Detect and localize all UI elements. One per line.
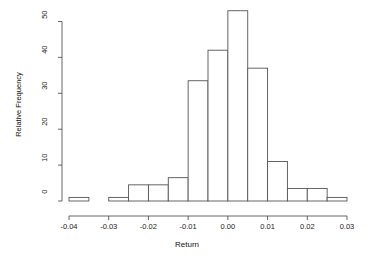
y-axis-tick-label: 40: [40, 46, 49, 68]
y-axis-tick-label: 50: [40, 10, 49, 32]
x-axis-tick-label: 0.00: [208, 222, 248, 231]
histogram-bar: [228, 11, 248, 201]
histogram-bar: [69, 197, 89, 201]
histogram-bar: [327, 197, 347, 201]
y-axis-tick-label: 0: [40, 190, 49, 212]
x-axis-title: Return: [0, 240, 374, 249]
y-axis-tick-label: 20: [40, 118, 49, 140]
histogram-bar: [109, 197, 129, 201]
x-axis-tick-label: -0.02: [128, 222, 168, 231]
y-axis-tick-label: 10: [40, 154, 49, 176]
histogram-bar: [148, 185, 168, 201]
y-axis-title: Relative Frequency: [14, 50, 23, 160]
x-axis-tick-label: -0.03: [89, 222, 129, 231]
histogram-bar: [287, 188, 307, 201]
histogram-bar: [129, 185, 149, 201]
x-axis: [69, 216, 347, 220]
x-axis-tick-label: -0.01: [168, 222, 208, 231]
histogram-bar: [307, 188, 327, 201]
y-axis: [58, 22, 62, 202]
y-axis-tick-label: 30: [40, 82, 49, 104]
x-axis-tick-label: 0.02: [287, 222, 327, 231]
histogram-figure: 01020304050 -0.04-0.03-0.02-0.010.000.01…: [0, 0, 374, 266]
x-axis-tick-label: 0.01: [248, 222, 288, 231]
histogram-bar: [248, 68, 268, 201]
histogram-bars: [69, 11, 347, 201]
x-axis-tick-label: 0.03: [327, 222, 367, 231]
x-axis-tick-label: -0.04: [49, 222, 89, 231]
histogram-bar: [188, 81, 208, 201]
plot-area: 01020304050 -0.04-0.03-0.02-0.010.000.01…: [0, 0, 374, 266]
histogram-bar: [268, 162, 288, 201]
histogram-bar: [168, 178, 188, 201]
histogram-bar: [208, 50, 228, 201]
